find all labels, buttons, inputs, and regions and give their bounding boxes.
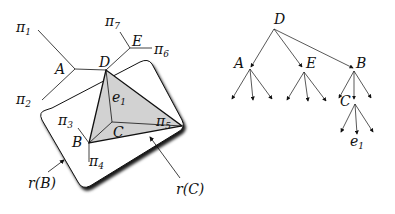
label-pi7: π7 — [104, 13, 120, 31]
tree-node-A: A — [232, 55, 244, 71]
label-B: B — [71, 134, 82, 150]
label-rC: r(C) — [176, 181, 204, 197]
label-pi6: π6 — [153, 41, 169, 59]
label-D: D — [98, 54, 110, 70]
tree-node-E: E — [305, 55, 316, 71]
tree-node-B: B — [355, 55, 366, 71]
label-pi1: π1 — [15, 19, 31, 37]
right-figure-tree — [232, 29, 373, 134]
label-E: E — [131, 33, 142, 49]
label-A: A — [53, 61, 65, 77]
label-pi2: π2 — [15, 91, 31, 109]
tree-node-e1: e1 — [350, 133, 364, 151]
diagram-canvas: π1 π2 π3 π4 π5 π6 π7 A D E B C e1 r(B) r… — [0, 0, 395, 214]
tree-node-D: D — [273, 11, 285, 27]
left-figure: π1 π2 π3 π4 π5 π6 π7 A D E B C e1 r(B) r… — [15, 13, 204, 197]
tree-node-C: C — [340, 93, 351, 109]
label-rB: r(B) — [28, 175, 56, 191]
label-C: C — [113, 124, 124, 140]
